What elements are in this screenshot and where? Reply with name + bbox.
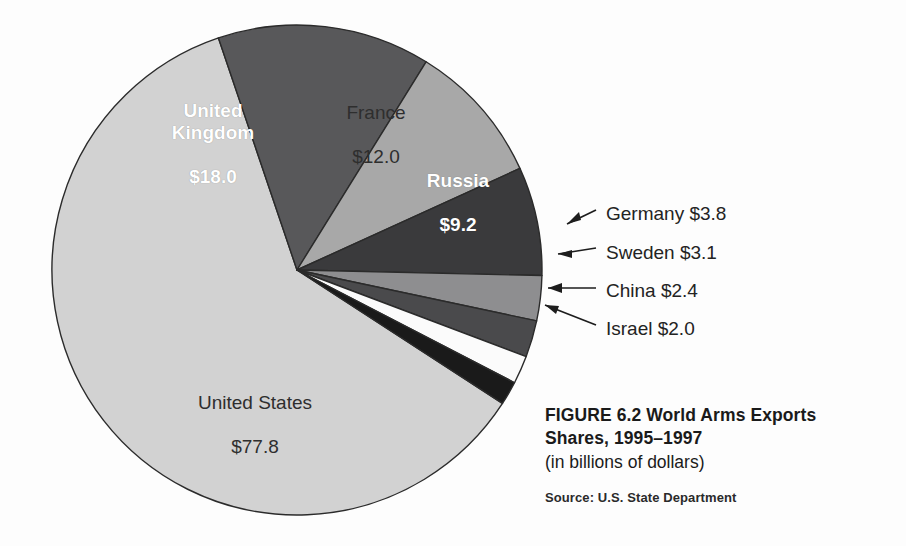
pie-slice-group: [52, 25, 542, 515]
figure-caption-block: FIGURE 6.2 World Arms Exports Shares, 19…: [545, 404, 890, 505]
figure-caption-title: FIGURE 6.2 World Arms Exports Shares, 19…: [545, 404, 890, 450]
callout-label-china: China $2.4: [606, 280, 698, 302]
callout-label-israel: Israel $2.0: [606, 318, 695, 340]
figure-caption-subtitle: (in billions of dollars): [545, 451, 890, 474]
figure-caption-title-line1: FIGURE 6.2 World Arms Exports: [545, 405, 816, 425]
figure-root: United Kingdom $18.0 France $12.0 Russia…: [0, 0, 906, 546]
figure-caption-title-line2: Shares, 1995–1997: [545, 428, 702, 448]
callout-label-sweden: Sweden $3.1: [606, 242, 717, 264]
figure-caption-source: Source: U.S. State Department: [545, 490, 890, 505]
callout-label-germany: Germany $3.8: [606, 203, 726, 225]
